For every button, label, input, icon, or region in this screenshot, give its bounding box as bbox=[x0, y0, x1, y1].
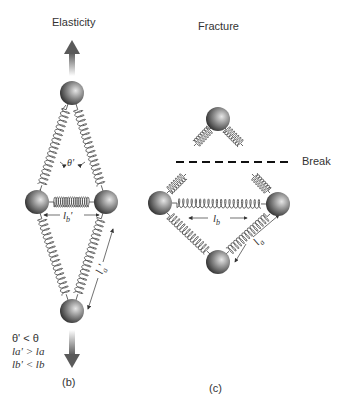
fracture-ball-bottom bbox=[206, 250, 230, 274]
conditions-list: θ' < θ la' > la lb' < lb bbox=[12, 332, 44, 371]
ball-top bbox=[60, 81, 84, 105]
ball-right bbox=[94, 190, 118, 214]
spring-top-left bbox=[40, 105, 66, 194]
lb-prime-label: lb' bbox=[63, 209, 72, 224]
fracture-ball-right bbox=[266, 192, 290, 216]
pull-down-arrow-icon bbox=[64, 330, 80, 368]
caption-b: (b) bbox=[62, 376, 75, 388]
elasticity-title: Elasticity bbox=[52, 16, 95, 28]
ball-left bbox=[25, 190, 49, 214]
caption-c: (c) bbox=[209, 382, 222, 394]
ball-bottom bbox=[60, 299, 84, 323]
condition-la: la' > la bbox=[12, 345, 44, 358]
diagram-canvas bbox=[0, 0, 350, 414]
fracture-title: Fracture bbox=[198, 20, 239, 32]
condition-theta: θ' < θ bbox=[12, 332, 44, 345]
condition-lb: lb' < lb bbox=[12, 358, 44, 371]
pull-up-arrow-icon bbox=[64, 40, 80, 76]
fracture-ball-top bbox=[206, 107, 230, 131]
fracture-ball-left bbox=[148, 191, 172, 215]
theta-prime-label: θ' bbox=[67, 157, 74, 168]
break-label: Break bbox=[302, 155, 331, 167]
lb-label: lb bbox=[213, 212, 220, 227]
